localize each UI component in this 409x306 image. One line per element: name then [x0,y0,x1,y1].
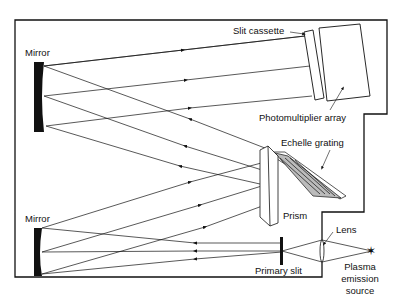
label-slit-cassette: Slit cassette [233,25,284,36]
label-echelle-grating: Echelle grating [281,137,344,148]
plasma-source-icon: ✶ [366,244,376,258]
photomultiplier-array [319,24,370,101]
lens [320,240,324,262]
prism [260,146,278,226]
label-mirror-top: Mirror [25,47,50,58]
label-photomultiplier-array: Photomultiplier array [259,112,346,123]
label-source-1: Plasma [344,261,376,272]
mirror-bottom [34,228,42,276]
spectrometer-diagram: ✶ Mirror Mirror Slit cassette Photomulti… [0,0,409,306]
label-mirror-bottom: Mirror [25,213,50,224]
label-source-2: emission [341,273,379,284]
mirror-top [34,62,44,132]
label-lens: Lens [336,224,357,235]
label-primary-slit: Primary slit [255,265,302,276]
label-prism: Prism [283,210,307,221]
label-source-3: source [346,285,375,296]
primary-slit [280,237,283,265]
